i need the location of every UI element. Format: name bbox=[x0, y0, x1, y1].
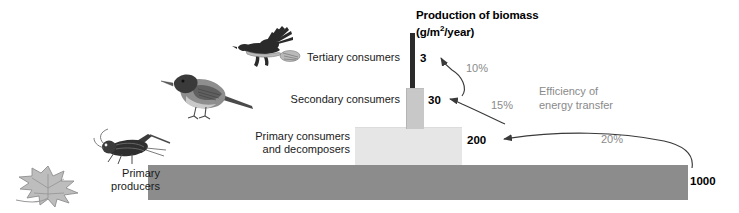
leaf-illustration bbox=[12, 162, 87, 208]
cricket-illustration bbox=[92, 126, 177, 168]
songbird-illustration bbox=[160, 66, 260, 120]
arrow-secondary-to-tertiary bbox=[441, 58, 464, 96]
biomass-pyramid-diagram: Production of biomass (g/m2/year) Tertia… bbox=[0, 0, 739, 213]
arrow-producers-to-primary bbox=[504, 133, 692, 168]
hawk-illustration bbox=[222, 12, 317, 72]
arrow-primary-to-secondary bbox=[450, 99, 505, 124]
transfer-arrows-layer bbox=[0, 0, 739, 213]
